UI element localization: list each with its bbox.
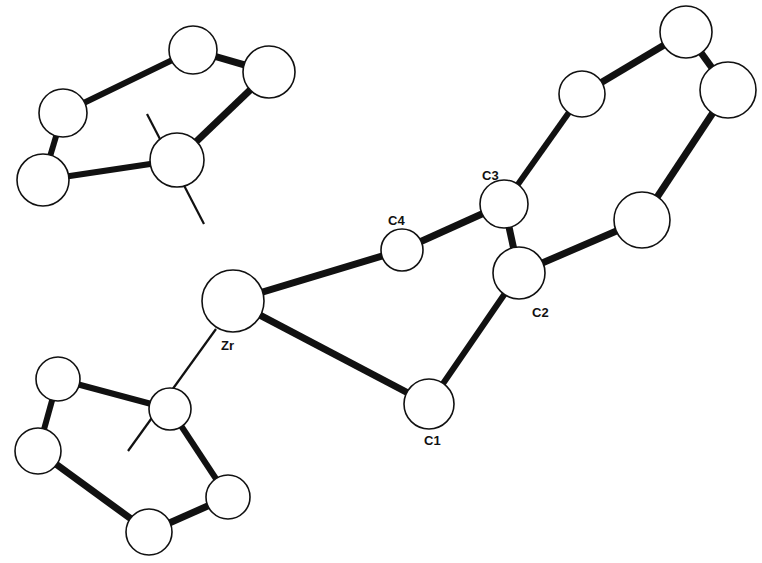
atom-cpb1 <box>36 357 80 401</box>
label-zr: Zr <box>221 338 234 353</box>
atom-c1 <box>404 379 454 429</box>
atom-cpa5 <box>17 154 69 206</box>
label-c3: C3 <box>482 168 499 183</box>
atom-cpb3 <box>15 428 61 474</box>
atom-cpb4 <box>206 475 250 519</box>
molecular-structure-diagram: Zr C1 C2 C3 C4 <box>0 0 762 563</box>
atom-ph1 <box>559 71 605 117</box>
bond <box>233 301 429 404</box>
atom-ph4 <box>614 192 670 248</box>
atom-c3 <box>480 180 528 228</box>
atom-c4 <box>381 229 423 271</box>
atom-cpa1 <box>169 26 217 74</box>
atom-ph3 <box>700 62 756 118</box>
atom-c2 <box>493 247 545 299</box>
bonds-layer <box>38 32 728 532</box>
label-c4: C4 <box>388 213 405 228</box>
atom-cpa4 <box>150 133 204 187</box>
atom-zr <box>202 270 264 332</box>
atom-cpa2 <box>243 46 295 98</box>
atom-cpb2 <box>149 388 191 430</box>
atom-ph2 <box>660 6 712 58</box>
atoms-layer <box>15 6 756 555</box>
atom-cpb5 <box>126 509 172 555</box>
atom-cpa3 <box>39 89 87 137</box>
label-c2: C2 <box>532 305 549 320</box>
label-c1: C1 <box>424 433 441 448</box>
